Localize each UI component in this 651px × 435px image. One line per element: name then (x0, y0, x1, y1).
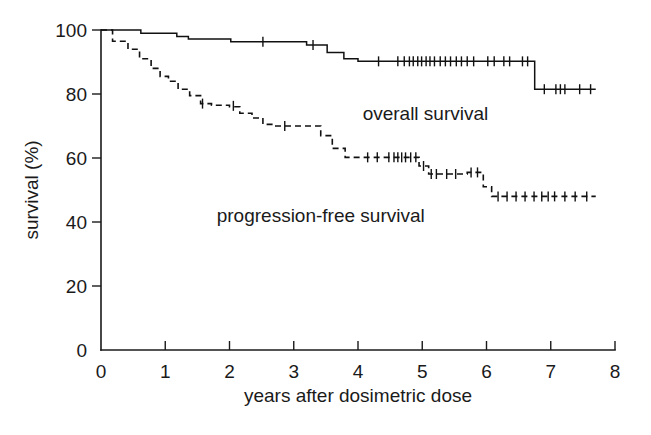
x-tick-label: 5 (417, 361, 428, 382)
x-tick-label: 0 (96, 361, 107, 382)
x-axis-title: years after dosimetric dose (244, 385, 472, 406)
axis-frame (101, 30, 615, 350)
x-tick-label: 3 (288, 361, 299, 382)
y-tick-label: 80 (66, 84, 87, 105)
progression-free-survival-label: progression-free survival (217, 205, 425, 226)
x-axis-ticks: 012345678 (96, 341, 621, 382)
survival-chart-figure: 020406080100 012345678 survival (%) year… (0, 0, 651, 435)
y-tick-label: 60 (66, 148, 87, 169)
y-tick-label: 0 (76, 340, 87, 361)
y-tick-label: 100 (55, 20, 87, 41)
series-curves (101, 30, 596, 196)
kaplan-meier-plot: 020406080100 012345678 survival (%) year… (0, 0, 651, 435)
x-tick-label: 2 (224, 361, 235, 382)
curve-progression-free-survival (101, 30, 596, 196)
y-tick-label: 40 (66, 212, 87, 233)
x-tick-label: 4 (353, 361, 364, 382)
x-tick-label: 1 (160, 361, 171, 382)
x-tick-label: 8 (610, 361, 621, 382)
overall-survival-label: overall survival (363, 103, 489, 124)
y-axis-ticks: 020406080100 (55, 20, 101, 361)
x-tick-label: 7 (545, 361, 556, 382)
y-axis-title: survival (%) (21, 140, 42, 239)
curve-overall-survival (101, 30, 596, 89)
x-tick-label: 6 (481, 361, 492, 382)
y-tick-label: 20 (66, 276, 87, 297)
